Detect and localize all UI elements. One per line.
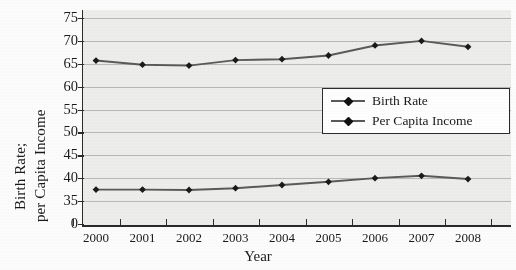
y-tick-label: 55 xyxy=(44,102,78,116)
x-tick-mark xyxy=(491,219,492,226)
legend-label: Birth Rate xyxy=(372,93,428,109)
x-tick-label: 2001 xyxy=(123,230,163,246)
x-tick-label: 2004 xyxy=(262,230,302,246)
data-point-marker xyxy=(465,176,472,183)
y-axis-tick-labels: 0354045505560657075 xyxy=(44,0,78,270)
chart-legend: Birth Rate Per Capita Income xyxy=(322,88,510,134)
data-point-marker xyxy=(139,186,146,193)
x-tick-label: 2002 xyxy=(169,230,209,246)
data-point-marker xyxy=(418,37,425,44)
x-tick-mark xyxy=(445,219,446,226)
data-point-marker xyxy=(186,187,193,194)
x-tick-mark xyxy=(213,219,214,226)
y-tick-label: 60 xyxy=(44,79,78,93)
legend-item-per-capita-income: Per Capita Income xyxy=(331,111,472,131)
data-point-marker xyxy=(279,182,286,189)
y-tick-label: 40 xyxy=(44,170,78,184)
x-tick-mark xyxy=(73,219,74,226)
data-point-marker xyxy=(418,172,425,179)
data-point-marker xyxy=(465,43,472,50)
x-tick-mark xyxy=(120,219,121,226)
legend-item-birth-rate: Birth Rate xyxy=(331,91,428,111)
data-point-marker xyxy=(232,185,239,192)
y-tick-label: 65 xyxy=(44,56,78,70)
y-tick-label: 75 xyxy=(44,10,78,24)
x-tick-mark xyxy=(306,219,307,226)
y-tick-label: 50 xyxy=(44,124,78,138)
x-tick-label: 2003 xyxy=(216,230,256,246)
x-axis-label: Year xyxy=(0,248,516,265)
x-tick-mark xyxy=(166,219,167,226)
y-axis-label-line1: Birth Rate; xyxy=(12,143,29,210)
data-point-marker xyxy=(93,57,100,64)
data-point-marker xyxy=(232,57,239,64)
x-tick-label: 2008 xyxy=(448,230,488,246)
x-tick-label: 2000 xyxy=(76,230,116,246)
data-point-marker xyxy=(279,56,286,63)
data-point-marker xyxy=(93,186,100,193)
y-tick-label: 70 xyxy=(44,33,78,47)
legend-marker-icon xyxy=(331,95,365,107)
y-tick-label: 45 xyxy=(44,147,78,161)
data-point-marker xyxy=(372,42,379,49)
data-point-marker xyxy=(325,178,332,185)
x-tick-mark xyxy=(259,219,260,226)
data-point-marker xyxy=(372,175,379,182)
x-tick-mark xyxy=(399,219,400,226)
legend-marker-icon xyxy=(331,115,365,127)
x-tick-label: 2005 xyxy=(309,230,349,246)
data-point-marker xyxy=(186,62,193,69)
data-point-marker xyxy=(325,52,332,59)
chart-figure: Birth Rate; per Capita Income 0354045505… xyxy=(0,0,516,270)
data-point-marker xyxy=(139,61,146,68)
x-tick-label: 2007 xyxy=(402,230,442,246)
y-tick-label: 35 xyxy=(44,193,78,207)
legend-label: Per Capita Income xyxy=(372,113,472,129)
x-tick-label: 2006 xyxy=(355,230,395,246)
x-tick-mark xyxy=(352,219,353,226)
x-axis-line xyxy=(82,225,511,227)
